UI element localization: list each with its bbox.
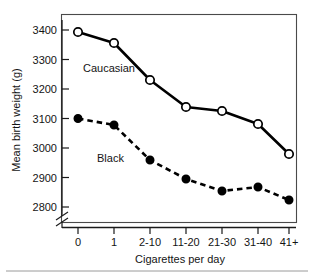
chart-figure: 3400 3300 3200 3100 3000 2900 2800 0 1 2… bbox=[0, 0, 314, 275]
data-point bbox=[110, 39, 118, 47]
y-axis-title: Mean birth weight (g) bbox=[10, 68, 22, 171]
y-axis-tick-labels: 3400 3300 3200 3100 3000 2900 2800 bbox=[33, 24, 57, 213]
x-tick-label: 21-30 bbox=[208, 236, 236, 248]
data-point bbox=[285, 150, 293, 158]
x-axis-tick-labels: 0 1 2-10 11-20 21-30 31-40 41+ bbox=[75, 236, 298, 248]
data-point bbox=[254, 120, 262, 128]
data-point bbox=[146, 76, 154, 84]
data-point bbox=[182, 175, 190, 183]
data-point bbox=[254, 183, 262, 191]
x-axis-ticks bbox=[78, 228, 289, 235]
x-tick-label: 11-20 bbox=[172, 236, 199, 248]
data-point bbox=[218, 107, 226, 115]
y-tick-label: 3000 bbox=[33, 142, 57, 154]
data-point bbox=[218, 187, 226, 195]
y-axis-ticks bbox=[62, 30, 69, 207]
y-tick-label: 3200 bbox=[33, 83, 57, 95]
x-tick-label: 2-10 bbox=[139, 236, 161, 248]
y-tick-label: 3100 bbox=[33, 113, 57, 125]
x-tick-label: 1 bbox=[111, 236, 117, 248]
x-tick-label: 0 bbox=[75, 236, 81, 248]
data-point bbox=[285, 196, 293, 204]
series-label-black: Black bbox=[97, 152, 124, 164]
data-point bbox=[74, 28, 82, 36]
plot-frame bbox=[62, 15, 297, 223]
x-tick-label: 41+ bbox=[280, 236, 299, 248]
birth-weight-line-chart: 3400 3300 3200 3100 3000 2900 2800 0 1 2… bbox=[0, 0, 314, 275]
y-tick-label: 3300 bbox=[33, 54, 57, 66]
x-axis-title: Cigarettes per day bbox=[135, 253, 225, 265]
data-point bbox=[146, 156, 154, 164]
data-point bbox=[182, 103, 190, 111]
data-point bbox=[110, 121, 118, 129]
x-tick-label: 31-40 bbox=[244, 236, 272, 248]
series-label-caucasian: Caucasian bbox=[83, 62, 135, 74]
series-markers-caucasian bbox=[74, 28, 293, 158]
data-point bbox=[74, 115, 82, 123]
y-tick-label: 2800 bbox=[33, 201, 57, 213]
y-tick-label: 2900 bbox=[33, 172, 57, 184]
series-line-caucasian bbox=[78, 32, 289, 154]
y-tick-label: 3400 bbox=[33, 24, 57, 36]
